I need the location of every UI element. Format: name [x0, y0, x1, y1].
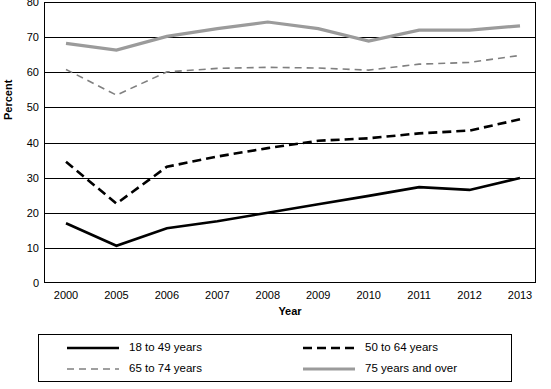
plot-area: 01020304050607080 2000200520062007200820… — [44, 2, 536, 283]
series-line-2 — [66, 55, 520, 95]
x-tick-label: 2006 — [155, 289, 179, 301]
series-lines — [44, 2, 536, 283]
legend-item-1: 50 to 64 years — [275, 341, 511, 354]
series-line-0 — [66, 178, 520, 246]
x-tick-label: 2011 — [407, 289, 431, 301]
x-tick-label: 2009 — [306, 289, 330, 301]
x-tick-label: 2007 — [205, 289, 229, 301]
y-axis-title: Percent — [2, 80, 14, 120]
y-tick-label: 40 — [0, 137, 39, 148]
series-line-1 — [66, 119, 520, 203]
x-tick-label: 2008 — [256, 289, 280, 301]
y-tick-label: 80 — [0, 0, 39, 8]
series-line-3 — [66, 22, 520, 50]
legend-label-2: 65 to 74 years — [129, 362, 202, 375]
legend-swatch-50-to-64-years — [303, 343, 355, 353]
y-tick-label: 0 — [0, 278, 39, 289]
y-tick-label: 30 — [0, 172, 39, 183]
legend-label-1: 50 to 64 years — [365, 341, 438, 354]
x-tick-label: 2013 — [508, 289, 532, 301]
legend-label-3: 75 years and over — [365, 362, 457, 375]
legend-item-0: 18 to 49 years — [39, 341, 275, 354]
y-tick-label: 10 — [0, 242, 39, 253]
x-tick-label: 2012 — [457, 289, 481, 301]
x-tick-label: 2000 — [54, 289, 78, 301]
y-tick-label: 50 — [0, 102, 39, 113]
y-tick-label: 60 — [0, 67, 39, 78]
x-axis-title: Year — [44, 305, 536, 317]
x-tick-label: 2005 — [104, 289, 128, 301]
legend-item-3: 75 years and over — [275, 362, 511, 375]
y-tick-label: 70 — [0, 32, 39, 43]
legend-item-2: 65 to 74 years — [39, 362, 275, 375]
legend-label-0: 18 to 49 years — [129, 341, 202, 354]
x-tick-label: 2010 — [356, 289, 380, 301]
legend-swatch-75-years-and-over — [303, 364, 355, 374]
y-tick-label: 20 — [0, 207, 39, 218]
legend-swatch-18-to-49-years — [67, 343, 119, 353]
legend: 18 to 49 years 50 to 64 years 65 to 74 y… — [38, 334, 512, 382]
line-chart: Percent 01020304050607080 20002005200620… — [0, 0, 551, 389]
legend-swatch-65-to-74-years — [67, 364, 119, 374]
